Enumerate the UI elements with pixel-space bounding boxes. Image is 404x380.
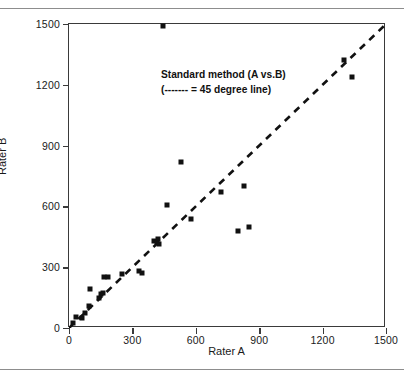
annotation-line-1: Standard method (A vs.B) <box>161 68 286 83</box>
y-tick-label: 0 <box>54 322 60 334</box>
top-divider-rule <box>0 8 404 9</box>
data-point <box>79 315 84 320</box>
y-tick-mark <box>63 85 69 86</box>
y-tick-mark <box>63 206 69 207</box>
data-point <box>139 271 144 276</box>
data-point <box>82 310 87 315</box>
data-point <box>87 303 92 308</box>
data-point <box>161 24 166 29</box>
annotation-line-2: (------- = 45 degree line) <box>161 83 286 98</box>
data-point <box>179 159 184 164</box>
chart-annotation: Standard method (A vs.B) (------- = 45 d… <box>161 68 286 98</box>
data-point <box>242 184 247 189</box>
y-tick-mark <box>63 146 69 147</box>
data-point <box>100 290 105 295</box>
data-point <box>88 287 93 292</box>
data-point <box>350 74 355 79</box>
y-tick-mark <box>63 267 69 268</box>
data-point <box>219 190 224 195</box>
data-point <box>165 203 170 208</box>
plot-area: 030060090012001500 030060090012001500 St… <box>68 23 385 327</box>
data-point <box>188 216 193 221</box>
y-tick-label: 900 <box>42 140 60 152</box>
y-axis-label: Rater B <box>0 138 8 175</box>
bottom-divider-rule <box>0 369 404 370</box>
data-point <box>71 320 76 325</box>
y-tick-label: 1200 <box>36 79 60 91</box>
y-tick-mark <box>63 24 69 25</box>
data-point <box>246 224 251 229</box>
data-point <box>236 228 241 233</box>
data-point <box>106 275 111 280</box>
data-point <box>341 58 346 63</box>
y-tick-label: 1500 <box>36 18 60 30</box>
data-point <box>119 272 124 277</box>
data-point <box>156 241 161 246</box>
y-tick-label: 300 <box>42 261 60 273</box>
x-axis-label: Rater A <box>68 345 385 357</box>
figure-container: 030060090012001500 030060090012001500 St… <box>0 0 404 380</box>
y-tick-label: 600 <box>42 200 60 212</box>
data-point <box>74 314 79 319</box>
